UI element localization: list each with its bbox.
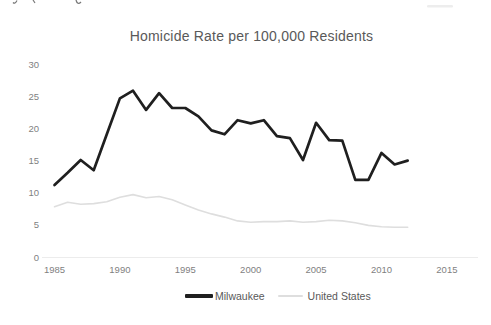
united-states-line <box>55 195 408 228</box>
y-tick-label: 25 <box>9 91 39 103</box>
y-tick-label: 10 <box>9 187 39 199</box>
x-tick-label: 2000 <box>231 264 271 276</box>
milwaukee-line-swatch <box>185 294 213 297</box>
legend: Milwaukee United States <box>185 290 371 302</box>
x-tick-label: 1985 <box>35 264 75 276</box>
x-tick-label: 1995 <box>165 264 205 276</box>
x-tick-label: 2010 <box>362 264 402 276</box>
y-tick-label: 0 <box>9 252 39 264</box>
united-states-line-swatch <box>278 295 303 297</box>
y-tick-label: 15 <box>9 155 39 167</box>
x-tick-label: 1990 <box>100 264 140 276</box>
plot-area <box>0 0 491 325</box>
legend-item-milwaukee: Milwaukee <box>185 290 265 302</box>
legend-label-united-states: United States <box>308 290 371 302</box>
legend-item-united-states: United States <box>278 290 371 302</box>
x-tick-label: 2015 <box>427 264 467 276</box>
x-tick-label: 2005 <box>296 264 336 276</box>
y-tick-label: 20 <box>9 123 39 135</box>
y-tick-label: 30 <box>9 59 39 71</box>
chart-canvas: Homicide Rate per 100,000 Residents 0510… <box>0 0 491 325</box>
legend-label-milwaukee: Milwaukee <box>215 290 265 302</box>
milwaukee-line <box>55 91 408 185</box>
y-tick-label: 5 <box>9 219 39 231</box>
